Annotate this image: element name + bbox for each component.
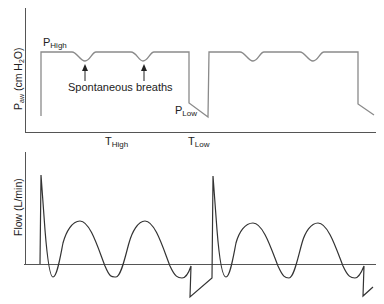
flow-axes — [24, 152, 376, 265]
pressure-axes — [25, 8, 376, 133]
flow-trace — [40, 175, 373, 297]
p-high-label: PHigh — [43, 36, 67, 50]
breath-arrows — [82, 64, 147, 81]
pressure-y-axis-label: Paw (cm H2O) — [12, 48, 25, 110]
flow-y-axis-label: Flow (L/min) — [12, 178, 24, 236]
spontaneous-breaths-annotation: Spontaneous breaths — [68, 81, 173, 93]
t-low-label: TLow — [188, 135, 209, 149]
p-low-label: PLow — [175, 104, 197, 118]
t-high-label: THigh — [105, 135, 128, 149]
